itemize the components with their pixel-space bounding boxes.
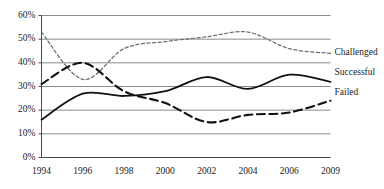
line-chart-plot [0, 0, 384, 189]
data-series-group [42, 32, 331, 123]
grid-lines [42, 16, 331, 158]
chart-container: 60%50%40%30%20%10%0% 1994199619982000200… [0, 0, 384, 189]
